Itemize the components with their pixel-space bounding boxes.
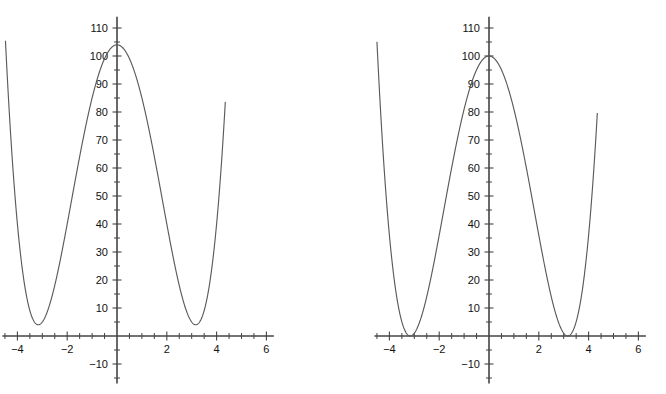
y-tick-label: 40 [468, 218, 480, 230]
chart-panel-left: −4−2246−10102030405060708090100110 [0, 0, 333, 394]
y-tick-label: −10 [461, 358, 480, 370]
curve-path [377, 42, 597, 336]
y-tick-label: 10 [468, 302, 480, 314]
y-tick-label: 110 [462, 22, 480, 34]
y-tick-label: 80 [468, 106, 480, 118]
x-tick-label: 6 [263, 343, 269, 355]
y-tick-label: 10 [96, 302, 108, 314]
x-tick-label: 4 [214, 343, 220, 355]
figure-stage: −4−2246−10102030405060708090100110 −4−22… [0, 0, 666, 394]
x-tick-label: −2 [61, 343, 74, 355]
y-tick-label: 60 [468, 162, 480, 174]
y-tick-label: 50 [468, 190, 480, 202]
chart-panel-right: −4−2246−10102030405060708090100110 [333, 0, 666, 394]
chart-svg-left: −4−2246−10102030405060708090100110 [0, 0, 333, 394]
y-tick-label: −10 [89, 358, 108, 370]
y-tick-label: 80 [96, 106, 108, 118]
y-tick-label: 70 [468, 134, 480, 146]
y-tick-label: 30 [468, 246, 480, 258]
y-tick-label: 20 [468, 274, 480, 286]
y-tick-label: 50 [96, 190, 108, 202]
curve-path [5, 41, 225, 325]
x-tick-label: 6 [635, 343, 641, 355]
x-tick-label: 2 [164, 343, 170, 355]
y-tick-label: 40 [96, 218, 108, 230]
y-tick-label: 60 [96, 162, 108, 174]
x-tick-label: 4 [586, 343, 592, 355]
y-tick-label: 100 [462, 50, 480, 62]
y-tick-label: 20 [96, 274, 108, 286]
chart-svg-right: −4−2246−10102030405060708090100110 [333, 0, 666, 394]
y-tick-label: 30 [96, 246, 108, 258]
x-tick-label: −4 [11, 343, 24, 355]
y-tick-label: 110 [90, 22, 108, 34]
x-tick-label: −4 [383, 343, 396, 355]
x-tick-label: −2 [433, 343, 446, 355]
y-tick-label: 70 [96, 134, 108, 146]
x-tick-label: 2 [536, 343, 542, 355]
